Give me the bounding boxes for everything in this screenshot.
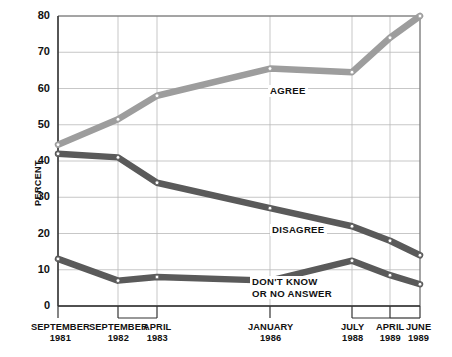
data-point-marker [418,14,422,18]
x-tick-label: APRIL1989 [376,322,404,345]
x-tick-month: JUNE [406,322,431,332]
x-tick-year: 1981 [31,333,90,344]
data-point-marker [268,206,272,210]
x-tick-label: JULY1988 [341,322,364,345]
x-tick-month: JULY [341,322,364,332]
data-point-marker [350,259,354,263]
dont-know-line-1: DON'T KNOW [252,276,318,287]
data-point-marker [155,275,159,279]
data-point-marker [418,282,422,286]
x-tick-year: 1988 [341,333,364,344]
x-tick-year: 1986 [248,333,293,344]
series-label-agree: AGREE [268,85,308,97]
data-point-marker [418,253,422,257]
data-point-marker [155,94,159,98]
x-tick-label: JUNE1989 [406,322,431,345]
x-tick-year: 1982 [89,333,148,344]
x-tick-month: SEPTEMBER [89,322,148,332]
data-point-marker [388,36,392,40]
series-line-2 [58,259,420,284]
data-point-marker [350,224,354,228]
x-tick-label: SEPTEMBER1981 [31,322,90,345]
data-point-marker [388,273,392,277]
x-tick-month: APRIL [143,322,171,332]
series-label-disagree: DISAGREE [270,224,327,236]
data-point-marker [116,117,120,121]
data-point-marker [155,181,159,185]
x-tick-month: SEPTEMBER [31,322,90,332]
series-lines [56,14,422,286]
plot-area [0,0,452,357]
series-line-0 [58,16,420,145]
data-point-marker [116,279,120,283]
x-tick-label: SEPTEMBER1982 [89,322,148,345]
x-tick-year: 1983 [143,333,171,344]
x-tick-year: 1989 [406,333,431,344]
data-point-marker [268,67,272,71]
data-point-marker [350,70,354,74]
series-line-1 [58,154,420,256]
x-tick-month: APRIL [376,322,404,332]
x-tick-label: JANUARY1986 [248,322,293,345]
x-tick-label: APRIL1983 [143,322,171,345]
line-chart: PERCENT 01020304050607080 SEPTEMBER1981S… [0,0,452,357]
dont-know-line-2: OR NO ANSWER [252,288,332,299]
data-point-marker [388,239,392,243]
data-point-marker [56,143,60,147]
data-point-marker [116,155,120,159]
x-tick-year: 1989 [376,333,404,344]
data-point-marker [56,152,60,156]
x-tick-month: JANUARY [248,322,293,332]
series-label-dont-know: DON'T KNOW OR NO ANSWER [250,276,334,299]
x-axis-tick-marks [58,306,420,318]
data-point-marker [56,257,60,261]
